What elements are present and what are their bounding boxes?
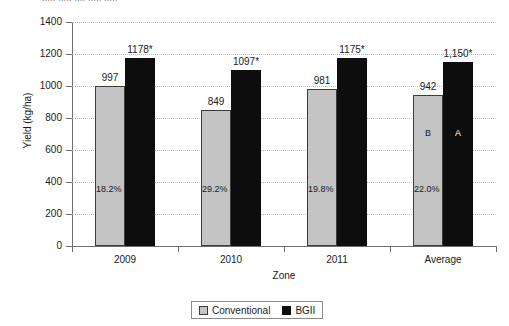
top-clipped-caption: ..... ..... .... ..... .....: [0, 0, 509, 8]
legend-label-conventional: Conventional: [212, 305, 270, 316]
percent-increase-label: 22.0%: [414, 184, 440, 194]
legend-swatch-conventional: [199, 306, 208, 315]
x-axis-tick: [284, 246, 285, 252]
bar-value-label-conventional: 997: [75, 72, 145, 83]
legend-swatch-bgii: [282, 306, 291, 315]
x-axis-category-label: 2011: [292, 254, 382, 265]
legend-item-bgii: BGII: [282, 305, 315, 316]
bar-conventional: [413, 95, 443, 246]
top-clipped-caption-text: ..... ..... .... ..... .....: [42, 0, 118, 3]
y-axis-tick-label: 800: [18, 112, 62, 123]
bar-value-label-conventional: 849: [181, 96, 251, 107]
y-axis-tick-label: 0: [18, 240, 62, 251]
y-axis-tick-label: 600: [18, 144, 62, 155]
chart-legend: Conventional BGII: [191, 301, 323, 319]
legend-item-conventional: Conventional: [199, 305, 270, 316]
bar-value-label-conventional: 981: [287, 75, 357, 86]
bar-bgii: [125, 58, 155, 246]
y-axis-tick-label: 1400: [18, 16, 62, 27]
bar-conventional: [307, 89, 337, 246]
plot-area: 9971178*18.2%8491097*29.2%9811175*19.8%9…: [72, 22, 496, 246]
group-letter-bgii: A: [455, 128, 461, 138]
x-axis-title: Zone: [72, 270, 496, 281]
bar-bgii: [337, 58, 367, 246]
x-axis-category-label: 2009: [80, 254, 170, 265]
percent-increase-label: 19.8%: [308, 184, 334, 194]
x-axis-category-label: Average: [398, 254, 488, 265]
percent-increase-label: 18.2%: [96, 184, 122, 194]
bar-value-label-bgii: 1175*: [317, 44, 387, 55]
bar-value-label-bgii: 1097*: [211, 56, 281, 67]
group-letter-conventional: B: [425, 128, 431, 138]
legend-label-bgii: BGII: [295, 305, 315, 316]
bar-value-label-bgii: 1178*: [105, 44, 175, 55]
y-axis-tick-label: 400: [18, 176, 62, 187]
bar-conventional: [95, 86, 125, 246]
x-axis-tick: [496, 246, 497, 252]
bar-chart: ..... ..... .... ..... ..... Yield (kg/h…: [0, 0, 509, 326]
x-axis-category-label: 2010: [186, 254, 276, 265]
percent-increase-label: 29.2%: [202, 184, 228, 194]
bar-value-label-bgii: 1,150*: [423, 48, 493, 59]
x-axis-tick: [178, 246, 179, 252]
y-axis-tick-label: 1200: [18, 48, 62, 59]
x-axis-tick: [390, 246, 391, 252]
y-axis-tick-label: 200: [18, 208, 62, 219]
bar-conventional: [201, 110, 231, 246]
x-axis-tick: [72, 246, 73, 252]
gridline: [72, 22, 496, 23]
y-axis-tick-label: 1000: [18, 80, 62, 91]
bar-value-label-conventional: 942: [393, 81, 463, 92]
